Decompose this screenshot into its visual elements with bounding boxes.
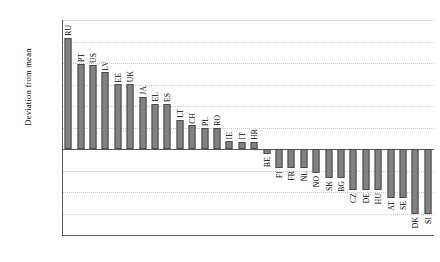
bar-group[interactable]: BG bbox=[335, 20, 347, 235]
bar-category-label: NO bbox=[312, 176, 321, 187]
bar[interactable] bbox=[139, 97, 146, 149]
bar-category-label: DE bbox=[361, 193, 370, 203]
bar-group[interactable]: PT bbox=[74, 20, 86, 235]
bar-category-label: US bbox=[88, 53, 97, 63]
y-axis-title: Deviation from mean bbox=[23, 7, 33, 167]
bar[interactable] bbox=[102, 72, 109, 149]
bar-category-label: HU bbox=[374, 193, 383, 204]
bar-category-label: BE bbox=[262, 157, 271, 167]
bar[interactable] bbox=[300, 149, 307, 168]
bar[interactable] bbox=[90, 65, 97, 149]
bar-group[interactable]: DK bbox=[409, 20, 421, 235]
bar[interactable] bbox=[164, 104, 171, 149]
bar-category-label: IE bbox=[225, 132, 234, 139]
bar[interactable] bbox=[77, 64, 84, 149]
bar-group[interactable]: NO bbox=[310, 20, 322, 235]
bar-group[interactable]: IE bbox=[223, 20, 235, 235]
bar[interactable] bbox=[65, 38, 72, 149]
bar-category-label: LV bbox=[101, 61, 110, 71]
bar-category-label: FR bbox=[287, 171, 296, 181]
bar[interactable] bbox=[350, 149, 357, 190]
bar-category-label: LT bbox=[175, 109, 184, 118]
bar-group[interactable]: CZ bbox=[347, 20, 359, 235]
bar-group[interactable]: BE bbox=[260, 20, 272, 235]
bar-category-label: RO bbox=[212, 115, 221, 126]
bar-group[interactable]: US bbox=[87, 20, 99, 235]
bar[interactable] bbox=[226, 141, 233, 149]
bar-group[interactable]: RU bbox=[62, 20, 74, 235]
bar[interactable] bbox=[214, 128, 221, 150]
bar-group[interactable]: LT bbox=[174, 20, 186, 235]
bar-group[interactable]: HR bbox=[248, 20, 260, 235]
bar-group[interactable]: IT bbox=[236, 20, 248, 235]
bar[interactable] bbox=[114, 84, 121, 149]
bar-category-label: EE bbox=[113, 73, 122, 82]
bar-group[interactable]: NL bbox=[298, 20, 310, 235]
bar-category-label: AT bbox=[386, 201, 395, 210]
bar-category-label: ES bbox=[163, 93, 172, 102]
bar[interactable] bbox=[176, 120, 183, 149]
bar-category-label: IT bbox=[237, 132, 246, 139]
bar-group[interactable]: JA bbox=[136, 20, 148, 235]
bar-group[interactable]: SI bbox=[422, 20, 434, 235]
bar[interactable] bbox=[238, 142, 245, 149]
bar-category-label: JA bbox=[138, 86, 147, 95]
bar-category-label: SE bbox=[398, 201, 407, 210]
bar[interactable] bbox=[412, 149, 419, 214]
bar[interactable] bbox=[201, 128, 208, 149]
bar-group[interactable]: SK bbox=[322, 20, 334, 235]
bar[interactable] bbox=[251, 142, 258, 149]
bar[interactable] bbox=[325, 149, 332, 178]
bar-category-label: FI bbox=[274, 171, 283, 178]
bar[interactable] bbox=[400, 149, 407, 198]
bar-group[interactable]: PL bbox=[198, 20, 210, 235]
bar[interactable] bbox=[189, 125, 196, 149]
bar-category-label: EL bbox=[150, 92, 159, 101]
bar-group[interactable]: SE bbox=[397, 20, 409, 235]
bar-group[interactable]: LV bbox=[99, 20, 111, 235]
bar-category-label: UK bbox=[126, 71, 135, 82]
bar-category-label: CH bbox=[188, 113, 197, 124]
bar[interactable] bbox=[387, 149, 394, 198]
bar-group[interactable]: FI bbox=[273, 20, 285, 235]
bar-category-label: NL bbox=[299, 171, 308, 181]
bar[interactable] bbox=[313, 149, 320, 173]
bar-group[interactable]: CH bbox=[186, 20, 198, 235]
bar-group[interactable]: ES bbox=[161, 20, 173, 235]
bar-category-label: PL bbox=[200, 117, 209, 126]
x-axis-line bbox=[62, 235, 434, 236]
bar-group[interactable]: HU bbox=[372, 20, 384, 235]
bar[interactable] bbox=[263, 149, 270, 154]
bar[interactable] bbox=[127, 84, 134, 149]
bar-chart: Deviation from mean RUPTUSLVEEUKJAELESLT… bbox=[0, 0, 440, 262]
bar-category-label: PT bbox=[76, 53, 85, 62]
bar[interactable] bbox=[362, 149, 369, 190]
bar-series: RUPTUSLVEEUKJAELESLTCHPLROIEITHRBEFIFRNL… bbox=[62, 20, 434, 235]
bar[interactable] bbox=[288, 149, 295, 168]
bar-category-label: RU bbox=[64, 25, 73, 36]
bar[interactable] bbox=[152, 104, 159, 149]
bar-group[interactable]: FR bbox=[285, 20, 297, 235]
plot-area: RUPTUSLVEEUKJAELESLTCHPLROIEITHRBEFIFRNL… bbox=[62, 20, 434, 235]
bar[interactable] bbox=[375, 149, 382, 190]
bar-category-label: SK bbox=[324, 181, 333, 191]
bar-group[interactable]: UK bbox=[124, 20, 136, 235]
bar-group[interactable]: RO bbox=[211, 20, 223, 235]
bar-category-label: HR bbox=[250, 129, 259, 140]
bar-category-label: DK bbox=[411, 217, 420, 228]
bar[interactable] bbox=[338, 149, 345, 178]
bar[interactable] bbox=[276, 149, 283, 168]
bar-category-label: SI bbox=[423, 217, 432, 224]
bar[interactable] bbox=[424, 149, 431, 214]
bar-category-label: BG bbox=[336, 181, 345, 192]
bar-group[interactable]: EE bbox=[112, 20, 124, 235]
bar-group[interactable]: DE bbox=[360, 20, 372, 235]
bar-group[interactable]: EL bbox=[149, 20, 161, 235]
bar-group[interactable]: AT bbox=[384, 20, 396, 235]
bar-category-label: CZ bbox=[349, 193, 358, 203]
